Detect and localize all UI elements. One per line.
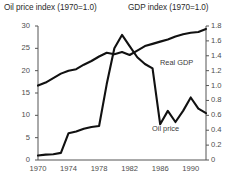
- left-axis-tick-label: 0: [14, 155, 30, 164]
- x-axis-tick-label: 1974: [55, 164, 83, 173]
- right-axis-tick-label: 0.8: [211, 95, 231, 104]
- x-axis-tick-label: 1986: [146, 164, 174, 173]
- right-axis-tick-label: 1.4: [211, 51, 231, 60]
- left-axis-tick-label: 20: [14, 66, 30, 75]
- x-axis-tick-label: 1970: [24, 164, 52, 173]
- x-axis-tick-label: 1990: [177, 164, 205, 173]
- right-axis-tick-label: 1.6: [211, 36, 231, 45]
- left-axis-tick-label: 25: [14, 43, 30, 52]
- left-axis-tick-label: 15: [14, 88, 30, 97]
- left-axis-tick-label: 10: [14, 110, 30, 119]
- series-label-real-gdp: Real GDP: [160, 58, 193, 67]
- dual-axis-line-chart: Oil price index (1970=1.0) GDP index (19…: [0, 0, 242, 183]
- right-axis-tick-label: 0.2: [211, 140, 231, 149]
- right-axis-tick-label: 0.4: [211, 125, 231, 134]
- right-axis-tick-label: 1.0: [211, 81, 231, 90]
- x-axis-tick-label: 1982: [116, 164, 144, 173]
- axis-lines: [38, 26, 206, 160]
- right-axis-tick-label: 1.8: [211, 21, 231, 30]
- plot-area: [0, 0, 242, 183]
- right-axis-tick-label: 0.6: [211, 110, 231, 119]
- series-label-oil-price: Oil price: [152, 124, 179, 133]
- right-axis-tick-label: 1.2: [211, 66, 231, 75]
- right-axis-tick-label: 0: [211, 155, 231, 164]
- left-axis-tick-label: 5: [14, 133, 30, 142]
- left-axis-tick-label: 30: [14, 21, 30, 30]
- x-axis-tick-label: 1978: [85, 164, 113, 173]
